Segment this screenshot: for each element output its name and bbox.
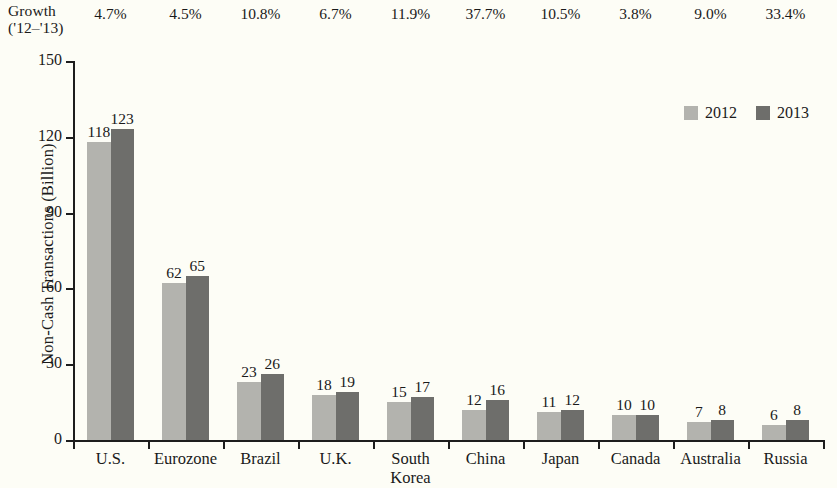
x-axis-category-label: China (466, 449, 505, 468)
x-axis-category-label: Japan (542, 449, 580, 468)
legend: 20122013 (684, 104, 809, 122)
y-axis-tick-label: 30 (46, 354, 62, 372)
bar-value-label: 8 (718, 402, 726, 418)
bar-value-label: 123 (111, 111, 134, 127)
legend-label: 2012 (705, 104, 737, 122)
bar-value-label: 6 (770, 407, 778, 423)
legend-item-2012: 2012 (684, 104, 737, 122)
growth-value: 10.8% (240, 5, 280, 23)
bar-2012-brazil: 23 (237, 382, 260, 440)
bar-2012-canada: 10 (612, 415, 635, 440)
bar-value-label: 18 (316, 377, 332, 393)
x-axis-category-line: U.K. (319, 449, 351, 468)
bar-2013-u-s: 123 (111, 129, 134, 440)
y-axis-tick-label: 90 (46, 203, 62, 221)
bar-2012-u-s: 118 (87, 142, 110, 440)
x-axis-category-label: U.S. (96, 449, 125, 468)
bar-value-label: 7 (695, 404, 703, 420)
bar-2012-australia: 7 (687, 422, 710, 440)
x-axis-tick (523, 440, 525, 449)
y-axis-tick-label: 120 (38, 127, 62, 145)
bar-value-label: 65 (189, 258, 205, 274)
bar-2013-japan: 12 (561, 410, 584, 440)
bar-group: 118123 (87, 60, 134, 440)
bar-value-label: 12 (466, 392, 482, 408)
x-axis-category-label: SouthKorea (390, 449, 430, 487)
bar-value-label: 16 (489, 382, 505, 398)
bar-2013-canada: 10 (636, 415, 659, 440)
bar-value-label: 11 (541, 394, 556, 410)
bar-value-label: 17 (414, 379, 430, 395)
y-axis-tick: 30 (66, 364, 74, 366)
y-axis-tick: 60 (66, 288, 74, 290)
x-axis-tick (148, 440, 150, 449)
bar-group: 1010 (612, 60, 659, 440)
x-axis-tick (298, 440, 300, 449)
bar-value-label: 15 (391, 384, 407, 400)
growth-value: 10.5% (540, 5, 580, 23)
bar-value-label: 10 (616, 397, 632, 413)
x-axis-category-line: Eurozone (154, 449, 217, 468)
x-axis-tick (373, 440, 375, 449)
legend-swatch-icon (756, 106, 770, 120)
bar-2012-china: 12 (462, 410, 485, 440)
y-axis-tick: 120 (66, 137, 74, 139)
y-axis-tick-label: 0 (54, 430, 62, 448)
legend-label: 2013 (777, 104, 809, 122)
bar-group: 1819 (312, 60, 359, 440)
x-axis-category-line: South (391, 449, 430, 468)
growth-row-label-line2: ('12–'13) (8, 19, 88, 36)
bar-2012-japan: 11 (537, 412, 560, 440)
bar-2013-brazil: 26 (261, 374, 284, 440)
bar-2013-russia: 8 (786, 420, 809, 440)
y-axis-line (73, 61, 75, 442)
bar-2013-eurozone: 65 (186, 276, 209, 440)
bar-value-label: 8 (793, 402, 801, 418)
x-axis-tick (448, 440, 450, 449)
bar-value-label: 10 (639, 397, 655, 413)
x-axis-tick (223, 440, 225, 449)
x-axis-tick (748, 440, 750, 449)
x-axis-category-line: Russia (763, 449, 807, 468)
legend-item-2013: 2013 (756, 104, 809, 122)
x-axis-category-line: Canada (611, 449, 660, 468)
bar-2013-china: 16 (486, 400, 509, 440)
growth-value: 11.9% (391, 5, 430, 23)
bar-value-label: 62 (166, 265, 182, 281)
bar-2013-australia: 8 (711, 420, 734, 440)
x-axis-category-line: Korea (390, 468, 430, 487)
growth-value: 6.7% (319, 5, 351, 23)
y-axis-tick-label: 150 (38, 51, 62, 69)
y-axis-tick: 150 (66, 61, 74, 63)
x-axis-category-label: Russia (763, 449, 807, 468)
growth-value: 37.7% (465, 5, 505, 23)
bar-chart: Growth ('12–'13) 4.7%4.5%10.8%6.7%11.9%3… (0, 0, 837, 488)
growth-value: 33.4% (765, 5, 805, 23)
bar-group: 1216 (462, 60, 509, 440)
bar-group: 6265 (162, 60, 209, 440)
growth-value: 9.0% (694, 5, 726, 23)
growth-row-label: Growth ('12–'13) (8, 2, 88, 36)
x-axis-category-line: U.S. (96, 449, 125, 468)
bar-2012-eurozone: 62 (162, 283, 185, 440)
x-axis-tick (673, 440, 675, 449)
bar-group: 1112 (537, 60, 584, 440)
bar-value-label: 23 (241, 364, 257, 380)
y-axis-tick: 90 (66, 213, 74, 215)
x-axis-category-label: Eurozone (154, 449, 217, 468)
x-axis-category-label: Australia (680, 449, 740, 468)
bar-group: 2326 (237, 60, 284, 440)
bar-2012-south-korea: 15 (387, 402, 410, 440)
bar-value-label: 12 (564, 392, 580, 408)
x-axis-tick (823, 440, 825, 449)
growth-value: 3.8% (619, 5, 651, 23)
x-axis-category-line: China (466, 449, 505, 468)
x-axis-category-line: Brazil (240, 449, 280, 468)
x-axis-category-label: Brazil (240, 449, 280, 468)
x-axis-category-label: U.K. (319, 449, 351, 468)
x-axis-tick (598, 440, 600, 449)
bar-2012-u-k: 18 (312, 395, 335, 440)
bar-2013-u-k: 19 (336, 392, 359, 440)
x-axis-category-line: Australia (680, 449, 740, 468)
x-axis-category-line: Japan (542, 449, 580, 468)
